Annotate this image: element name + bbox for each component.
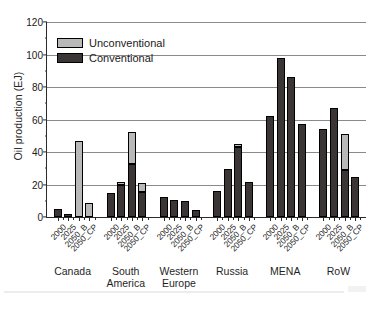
bar-segment-conventional xyxy=(341,170,349,217)
bar-segment-conventional xyxy=(128,164,136,217)
bar-western-europe-2000 xyxy=(160,197,168,217)
x-axis-tick-mark xyxy=(164,217,165,221)
y-axis-minor-tick xyxy=(45,70,48,71)
bar-segment-conventional xyxy=(224,169,232,217)
bar-segment-conventional xyxy=(330,108,338,217)
x-axis-tick-mark xyxy=(142,217,143,221)
x-axis-tick-mark xyxy=(132,217,133,221)
bar-segment-conventional xyxy=(160,197,168,217)
x-axis-minor-tick xyxy=(190,217,191,220)
x-axis-tick-mark xyxy=(79,217,80,221)
x-axis-tick-mark xyxy=(58,217,59,221)
x-axis-tick-mark xyxy=(228,217,229,221)
x-axis-minor-tick xyxy=(127,217,128,220)
bar-segment-conventional xyxy=(287,77,295,217)
x-axis-tick-mark xyxy=(121,217,122,221)
bar-russia-2000 xyxy=(213,191,221,217)
bar-russia-2050_B xyxy=(234,144,242,217)
x-axis-minor-tick xyxy=(254,217,255,220)
group-label-row: RoW xyxy=(304,265,373,277)
bar-mena-2050_B xyxy=(287,77,295,217)
x-axis-tick-mark xyxy=(355,217,356,221)
y-axis-minor-tick xyxy=(45,135,48,136)
x-axis-tick-mark xyxy=(345,217,346,221)
bar-segment-unconventional xyxy=(85,203,93,217)
bar-canada-2050_CP xyxy=(85,203,93,217)
gridline xyxy=(47,22,366,23)
bar-segment-conventional xyxy=(181,201,189,217)
bar-segment-unconventional xyxy=(341,134,349,170)
bar-row-2000 xyxy=(319,129,327,217)
x-axis-tick-mark xyxy=(89,217,90,221)
bar-south-america-2050_B xyxy=(128,132,136,217)
y-axis-minor-tick xyxy=(45,103,48,104)
bar-segment-unconventional xyxy=(138,183,146,192)
legend-swatch-conventional xyxy=(57,53,83,63)
bar-segment-conventional xyxy=(319,129,327,217)
x-axis-minor-tick xyxy=(339,217,340,220)
x-axis-tick-mark xyxy=(270,217,271,221)
bar-segment-conventional xyxy=(245,182,253,217)
bar-segment-conventional xyxy=(192,210,200,217)
bar-segment-conventional xyxy=(117,185,125,217)
bar-row-2025 xyxy=(330,108,338,217)
x-axis-minor-tick xyxy=(297,217,298,220)
x-axis-tick-mark xyxy=(302,217,303,221)
x-axis-tick-mark xyxy=(174,217,175,221)
gridline xyxy=(47,87,366,88)
x-axis-minor-tick xyxy=(307,217,308,220)
bar-segment-conventional xyxy=(213,191,221,217)
x-axis-tick-mark xyxy=(185,217,186,221)
bar-segment-conventional xyxy=(234,147,242,217)
y-axis-tick-mark xyxy=(43,216,47,217)
scan-artifact xyxy=(4,291,344,293)
bar-south-america-2050_CP xyxy=(138,183,146,217)
bar-segment-conventional xyxy=(54,209,62,217)
scan-artifact-corner xyxy=(348,286,366,292)
bar-segment-unconventional xyxy=(234,144,242,147)
legend-item-conventional: Conventional xyxy=(57,50,165,65)
y-axis-tick-mark xyxy=(43,54,47,55)
x-axis-minor-tick xyxy=(180,217,181,220)
bar-segment-unconventional xyxy=(128,132,136,165)
bar-canada-2000 xyxy=(54,209,62,217)
x-axis-minor-tick xyxy=(137,217,138,220)
bar-row-2050_CP xyxy=(351,177,359,217)
x-axis-minor-tick xyxy=(286,217,287,220)
x-axis-tick-mark xyxy=(323,217,324,221)
bar-segment-unconventional xyxy=(117,182,125,185)
y-axis-tick-label: 60 xyxy=(32,114,43,125)
x-axis-minor-tick xyxy=(233,217,234,220)
bar-mena-2000 xyxy=(266,116,274,217)
bar-segment-conventional xyxy=(170,200,178,217)
y-axis-tick-mark xyxy=(43,119,47,120)
gridline xyxy=(47,120,366,121)
x-axis-minor-tick xyxy=(95,217,96,220)
x-axis-tick-mark xyxy=(291,217,292,221)
bar-western-europe-2025 xyxy=(170,200,178,217)
gridline xyxy=(47,185,366,186)
x-axis-minor-tick xyxy=(275,217,276,220)
x-axis-tick-mark xyxy=(238,217,239,221)
x-axis-minor-tick xyxy=(360,217,361,220)
y-axis-tick-mark xyxy=(43,184,47,185)
y-axis-minor-tick xyxy=(45,38,48,39)
y-axis-tick-mark xyxy=(43,151,47,152)
legend-label-unconventional: Unconventional xyxy=(89,37,165,49)
x-axis-tick-mark xyxy=(281,217,282,221)
x-axis-tick-mark xyxy=(196,217,197,221)
legend-item-unconventional: Unconventional xyxy=(57,35,165,50)
bar-south-america-2025 xyxy=(117,182,125,217)
bar-segment-conventional xyxy=(107,193,115,217)
bar-row-2050_B xyxy=(341,134,349,217)
chart-legend: Unconventional Conventional xyxy=(57,35,165,65)
x-axis-minor-tick xyxy=(63,217,64,220)
bar-western-europe-2050_B xyxy=(181,201,189,217)
y-axis-tick-label: 80 xyxy=(32,82,43,93)
x-axis-minor-tick xyxy=(169,217,170,220)
x-axis-minor-tick xyxy=(116,217,117,220)
x-axis-tick-mark xyxy=(217,217,218,221)
oil-production-bar-chart: Oil production (EJ) 02040608010012020002… xyxy=(0,0,374,309)
x-axis-minor-tick xyxy=(329,217,330,220)
x-axis-minor-tick xyxy=(148,217,149,220)
